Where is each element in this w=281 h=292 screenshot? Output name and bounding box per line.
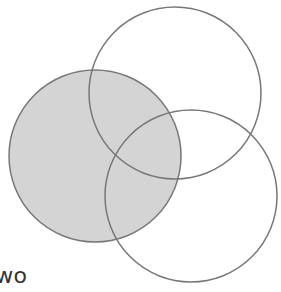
circle-left-shaded: [9, 70, 181, 242]
diagram-label: two: [0, 263, 28, 288]
venn-diagram: [0, 0, 281, 292]
